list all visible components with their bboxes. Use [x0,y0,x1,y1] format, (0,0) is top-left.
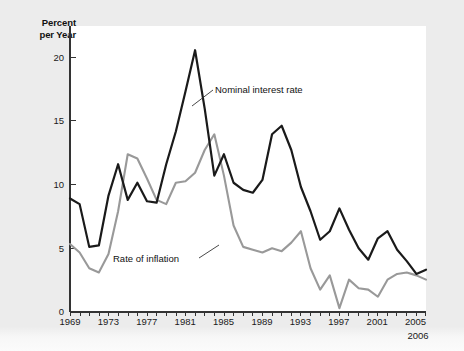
inflation-annotation-leader-line [199,245,219,258]
series-overlay [0,0,464,351]
rate-of-inflation-line [70,134,426,308]
nominal-interest-rate-annotation: Nominal interest rate [215,84,303,95]
page-background: Percent per Year 20 15 10 5 0 [0,0,464,351]
rate-of-inflation-annotation: Rate of inflation [113,253,179,264]
line-chart-figure: Percent per Year 20 15 10 5 0 [0,0,464,351]
